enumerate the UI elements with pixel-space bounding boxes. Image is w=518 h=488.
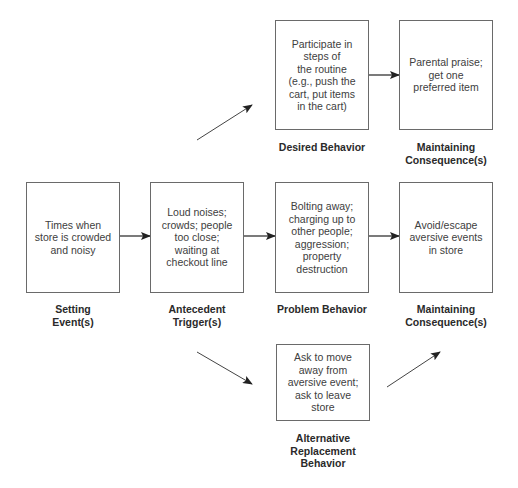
desired-consequence-box: Parental praise; get one preferred item: [399, 20, 493, 130]
antecedent-trigger-box: Loud noises; crowds; people too close; w…: [150, 182, 244, 293]
desired-consequence-text: Parental praise; get one preferred item: [409, 56, 483, 94]
problem-behavior-label: Problem Behavior: [262, 303, 382, 316]
maintaining-consequence-label: Maintaining Consequence(s): [386, 303, 506, 328]
arrow-replacement-to-consequence: [387, 352, 440, 387]
desired-behavior-label: Desired Behavior: [262, 141, 382, 154]
desired-behavior-text: Participate in steps of the routine (e.g…: [288, 38, 355, 113]
maintaining-consequence-text: Avoid/escape aversive events in store: [410, 219, 483, 257]
desired-consequence-label: Maintaining Consequence(s): [386, 141, 506, 166]
maintaining-consequence-box: Avoid/escape aversive events in store: [399, 182, 493, 293]
arrow-antecedent-to-replacement: [197, 352, 252, 384]
setting-event-text: Times when store is crowded and noisy: [35, 219, 111, 257]
antecedent-trigger-label: Antecedent Trigger(s): [137, 303, 257, 328]
arrow-antecedent-to-desired: [197, 105, 252, 140]
desired-behavior-box: Participate in steps of the routine (e.g…: [275, 20, 369, 130]
setting-event-box: Times when store is crowded and noisy: [26, 182, 120, 293]
replacement-behavior-box: Ask to move away from aversive event; as…: [276, 344, 370, 421]
problem-behavior-text: Bolting away; charging up to other peopl…: [289, 200, 356, 275]
antecedent-trigger-text: Loud noises; crowds; people too close; w…: [162, 206, 233, 269]
setting-event-label: Setting Event(s): [13, 303, 133, 328]
replacement-behavior-label: Alternative Replacement Behavior: [263, 432, 383, 470]
replacement-behavior-text: Ask to move away from aversive event; as…: [288, 351, 359, 414]
problem-behavior-box: Bolting away; charging up to other peopl…: [275, 182, 369, 293]
